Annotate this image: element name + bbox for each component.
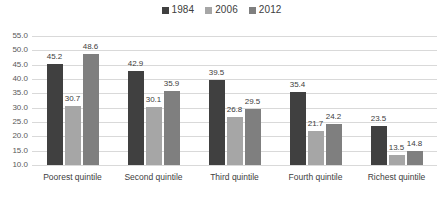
bar-value-label: 26.8 xyxy=(227,106,243,114)
bar[interactable] xyxy=(308,131,324,165)
bar[interactable] xyxy=(389,155,405,165)
bar-group: 35.421.724.2 xyxy=(275,36,356,165)
bar-column: 39.5 xyxy=(209,36,225,165)
x-axis: Poorest quintileSecond quintileThird qui… xyxy=(32,166,437,190)
bar[interactable] xyxy=(290,92,306,165)
bar-value-label: 42.9 xyxy=(128,60,144,68)
bar-column: 30.1 xyxy=(146,36,162,165)
bar[interactable] xyxy=(227,117,243,165)
bar[interactable] xyxy=(209,80,225,165)
bar-value-label: 13.5 xyxy=(389,144,405,152)
y-axis-tick-label: 25.0 xyxy=(12,118,28,126)
y-axis-tick-label: 15.0 xyxy=(12,147,28,155)
bar[interactable] xyxy=(245,109,261,165)
y-axis-tick-label: 20.0 xyxy=(12,132,28,140)
y-axis-tick-label: 45.0 xyxy=(12,61,28,69)
legend-item-1984[interactable]: 1984 xyxy=(162,5,195,15)
bar-group: 39.526.829.5 xyxy=(194,36,275,165)
bar-column: 35.4 xyxy=(290,36,306,165)
bar-value-label: 24.2 xyxy=(326,113,342,121)
bar[interactable] xyxy=(128,71,144,165)
x-axis-tick-label: Second quintile xyxy=(113,166,194,190)
bar-value-label: 35.9 xyxy=(164,80,180,88)
legend-label: 1984 xyxy=(172,5,195,15)
bar-group: 42.930.135.9 xyxy=(113,36,194,165)
legend-label: 2012 xyxy=(259,5,282,15)
bar-group: 23.513.514.8 xyxy=(356,36,437,165)
bar-column: 29.5 xyxy=(245,36,261,165)
legend-swatch-icon xyxy=(249,7,256,14)
bar-value-label: 29.5 xyxy=(245,98,261,106)
legend-item-2012[interactable]: 2012 xyxy=(249,5,282,15)
bar[interactable] xyxy=(83,54,99,165)
legend-swatch-icon xyxy=(205,7,212,14)
bar-column: 45.2 xyxy=(47,36,63,165)
bar-groups: 45.230.748.642.930.135.939.526.829.535.4… xyxy=(32,36,437,165)
bar-set: 42.930.135.9 xyxy=(113,36,194,165)
bar-set: 45.230.748.6 xyxy=(32,36,113,165)
y-axis-tick-label: 55.0 xyxy=(12,32,28,40)
y-axis-tick-label: 50.0 xyxy=(12,46,28,54)
bar-column: 42.9 xyxy=(128,36,144,165)
bar[interactable] xyxy=(371,126,387,165)
bar-column: 24.2 xyxy=(326,36,342,165)
chart-legend: 198420062012 xyxy=(0,3,443,17)
legend-label: 2006 xyxy=(215,5,238,15)
bar-column: 13.5 xyxy=(389,36,405,165)
x-axis-tick-label: Third quintile xyxy=(194,166,275,190)
bar-group: 45.230.748.6 xyxy=(32,36,113,165)
bar-column: 14.8 xyxy=(407,36,423,165)
x-axis-tick-label: Richest quintile xyxy=(356,166,437,190)
bar-chart: 198420062012 55.050.045.040.035.030.025.… xyxy=(0,0,443,197)
bar-column: 48.6 xyxy=(83,36,99,165)
bar[interactable] xyxy=(326,124,342,165)
y-axis-tick-label: 35.0 xyxy=(12,89,28,97)
bar[interactable] xyxy=(164,91,180,165)
bar-column: 35.9 xyxy=(164,36,180,165)
bar-set: 35.421.724.2 xyxy=(275,36,356,165)
bar-value-label: 39.5 xyxy=(209,69,225,77)
bar-column: 23.5 xyxy=(371,36,387,165)
bar-value-label: 23.5 xyxy=(371,115,387,123)
x-axis-tick-label: Fourth quintile xyxy=(275,166,356,190)
bar[interactable] xyxy=(47,64,63,165)
bar-column: 26.8 xyxy=(227,36,243,165)
bar-value-label: 35.4 xyxy=(290,81,306,89)
bar-column: 30.7 xyxy=(65,36,81,165)
bar[interactable] xyxy=(65,106,81,165)
bar-column: 21.7 xyxy=(308,36,324,165)
legend-swatch-icon xyxy=(162,7,169,14)
bar-value-label: 48.6 xyxy=(83,43,99,51)
bar-set: 39.526.829.5 xyxy=(194,36,275,165)
bar-value-label: 45.2 xyxy=(47,53,63,61)
bar[interactable] xyxy=(407,151,423,165)
y-axis-tick-label: 30.0 xyxy=(12,104,28,112)
y-axis-tick-label: 10.0 xyxy=(12,161,28,169)
bar-value-label: 30.1 xyxy=(146,96,162,104)
bar[interactable] xyxy=(146,107,162,165)
bar-set: 23.513.514.8 xyxy=(356,36,437,165)
y-axis-tick-label: 40.0 xyxy=(12,75,28,83)
bar-value-label: 21.7 xyxy=(308,120,324,128)
bar-value-label: 14.8 xyxy=(407,140,423,148)
legend-item-2006[interactable]: 2006 xyxy=(205,5,238,15)
x-axis-tick-label: Poorest quintile xyxy=(32,166,113,190)
bar-value-label: 30.7 xyxy=(65,95,81,103)
y-axis: 55.050.045.040.035.030.025.020.015.010.0 xyxy=(0,36,28,165)
